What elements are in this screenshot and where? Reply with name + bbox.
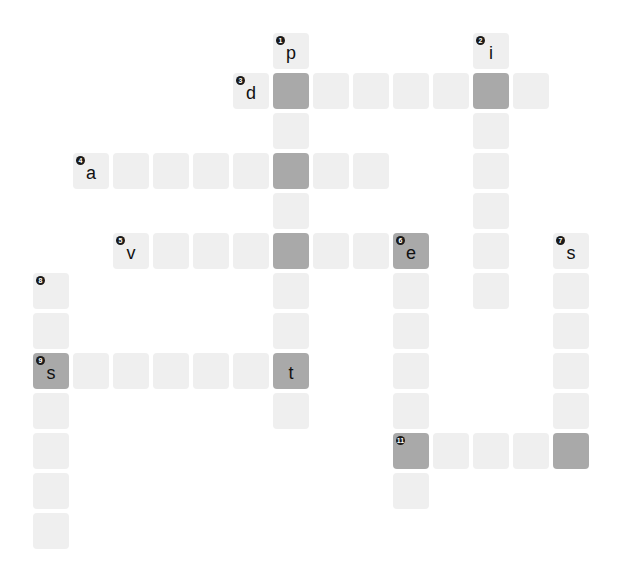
crossword-cell[interactable] xyxy=(233,153,269,189)
crossword-cell[interactable] xyxy=(313,73,349,109)
crossword-cell[interactable] xyxy=(553,353,589,389)
crossword-cell[interactable] xyxy=(473,73,509,109)
crossword-cell[interactable] xyxy=(233,233,269,269)
crossword-cell[interactable] xyxy=(273,393,309,429)
crossword-cell[interactable]: 3d xyxy=(233,73,269,109)
crossword-cell[interactable] xyxy=(73,353,109,389)
crossword-cell[interactable] xyxy=(273,73,309,109)
crossword-cell[interactable] xyxy=(473,113,509,149)
crossword-cell[interactable]: 9s xyxy=(33,353,69,389)
crossword-cell[interactable] xyxy=(553,273,589,309)
cell-letter: p xyxy=(273,42,309,64)
cell-letter: e xyxy=(393,242,429,264)
crossword-cell[interactable] xyxy=(193,233,229,269)
crossword-cell[interactable] xyxy=(273,233,309,269)
crossword-cell[interactable] xyxy=(433,73,469,109)
crossword-cell[interactable] xyxy=(393,393,429,429)
crossword-cell[interactable]: 4a xyxy=(73,153,109,189)
crossword-cell[interactable] xyxy=(33,313,69,349)
cell-letter: t xyxy=(273,362,309,384)
crossword-cell[interactable] xyxy=(473,153,509,189)
crossword-cell[interactable] xyxy=(553,433,589,469)
crossword-cell[interactable] xyxy=(313,233,349,269)
crossword-cell[interactable] xyxy=(153,153,189,189)
crossword-cell[interactable] xyxy=(553,393,589,429)
crossword-grid: 1pt2i3d4a5v6e117s89s xyxy=(0,0,619,570)
crossword-cell[interactable]: 5v xyxy=(113,233,149,269)
crossword-cell[interactable]: 2i xyxy=(473,33,509,69)
clue-number-badge: 8 xyxy=(36,276,45,285)
cell-letter: s xyxy=(33,362,69,384)
crossword-cell[interactable] xyxy=(393,473,429,509)
crossword-cell[interactable]: 7s xyxy=(553,233,589,269)
crossword-cell[interactable] xyxy=(153,353,189,389)
crossword-cell[interactable] xyxy=(273,193,309,229)
crossword-cell[interactable] xyxy=(353,73,389,109)
crossword-cell[interactable] xyxy=(353,233,389,269)
crossword-cell[interactable]: t xyxy=(273,353,309,389)
crossword-cell[interactable] xyxy=(513,73,549,109)
crossword-cell[interactable] xyxy=(273,113,309,149)
crossword-cell[interactable]: 11 xyxy=(393,433,429,469)
crossword-cell[interactable] xyxy=(193,153,229,189)
crossword-cell[interactable]: 8 xyxy=(33,273,69,309)
crossword-cell[interactable] xyxy=(113,153,149,189)
crossword-cell[interactable] xyxy=(393,313,429,349)
crossword-cell[interactable] xyxy=(553,313,589,349)
crossword-cell[interactable] xyxy=(473,233,509,269)
crossword-cell[interactable] xyxy=(33,393,69,429)
cell-letter: s xyxy=(553,242,589,264)
crossword-cell[interactable] xyxy=(153,233,189,269)
crossword-cell[interactable] xyxy=(273,153,309,189)
crossword-cell[interactable] xyxy=(473,193,509,229)
cell-letter: a xyxy=(73,162,109,184)
crossword-cell[interactable] xyxy=(233,353,269,389)
clue-number-badge: 11 xyxy=(396,436,405,445)
crossword-cell[interactable] xyxy=(313,153,349,189)
crossword-cell[interactable] xyxy=(393,73,429,109)
crossword-cell[interactable] xyxy=(113,353,149,389)
crossword-cell[interactable] xyxy=(473,273,509,309)
crossword-cell[interactable] xyxy=(353,153,389,189)
crossword-cell[interactable]: 6e xyxy=(393,233,429,269)
cell-letter: d xyxy=(233,82,269,104)
crossword-cell[interactable] xyxy=(33,433,69,469)
crossword-cell[interactable] xyxy=(513,433,549,469)
crossword-cell[interactable] xyxy=(433,433,469,469)
crossword-cell[interactable] xyxy=(33,513,69,549)
crossword-cell[interactable] xyxy=(273,313,309,349)
crossword-cell[interactable] xyxy=(193,353,229,389)
crossword-cell[interactable] xyxy=(393,273,429,309)
cell-letter: v xyxy=(113,242,149,264)
crossword-cell[interactable] xyxy=(473,433,509,469)
crossword-cell[interactable]: 1p xyxy=(273,33,309,69)
cell-letter: i xyxy=(473,42,509,64)
crossword-cell[interactable] xyxy=(273,273,309,309)
crossword-cell[interactable] xyxy=(33,473,69,509)
crossword-cell[interactable] xyxy=(393,353,429,389)
